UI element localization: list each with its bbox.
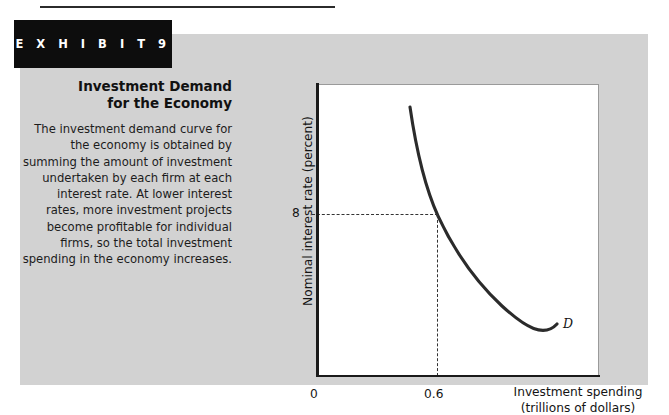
y-axis-label: Nominal interest rate (percent): [301, 86, 315, 336]
x-axis: [316, 375, 600, 378]
page-top-rule: [40, 6, 335, 8]
exhibit-title: Investment Demandfor the Economy: [22, 78, 232, 112]
exhibit-caption-text: The investment demand curve for the econ…: [22, 121, 232, 268]
investment-demand-chart: Nominal interest rate (percent) 8 0 0.6 …: [316, 84, 599, 377]
exhibit-badge-label: E X H I B I T 9: [15, 37, 170, 51]
x-tick-0: 0: [310, 387, 318, 401]
x-tick-0-6: 0.6: [424, 387, 443, 401]
guide-line-vertical: [437, 215, 438, 376]
x-axis-label: Investment spending(trillions of dollars…: [468, 385, 669, 415]
demand-curve-label: D: [563, 316, 573, 331]
y-tick-8: 8: [292, 206, 300, 220]
exhibit-caption-column: Investment Demandfor the Economy The inv…: [22, 78, 232, 268]
demand-curve-path: [410, 107, 557, 330]
exhibit-badge: E X H I B I T 9: [14, 20, 172, 68]
demand-curve-svg: [316, 84, 599, 377]
y-axis: [316, 83, 319, 377]
guide-line-horizontal: [312, 214, 438, 215]
